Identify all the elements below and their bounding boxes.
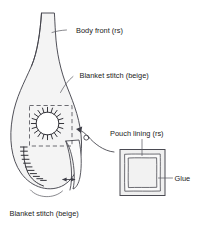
arrow-path-loop	[84, 135, 89, 140]
label-glue: Glue	[175, 174, 191, 183]
pouch-lining-inner	[128, 158, 157, 188]
sewing-diagram: Body front (rs) Blanket stitch (beige) B…	[0, 0, 206, 233]
label-blanket-stitch-bottom: Blanket stitch (beige)	[10, 209, 79, 218]
label-body-front: Body front (rs)	[76, 26, 123, 35]
pouch-lining-group	[120, 150, 165, 196]
circular-opening	[36, 112, 59, 135]
diagram-canvas: Body front (rs) Blanket stitch (beige) B…	[0, 0, 206, 233]
label-pouch-lining: Pouch lining (rs)	[110, 129, 164, 138]
placement-arrow-curve	[79, 130, 115, 152]
label-blanket-stitch-top: Blanket stitch (beige)	[80, 71, 149, 80]
leader-blanket-stitch-bottom	[31, 190, 63, 197]
